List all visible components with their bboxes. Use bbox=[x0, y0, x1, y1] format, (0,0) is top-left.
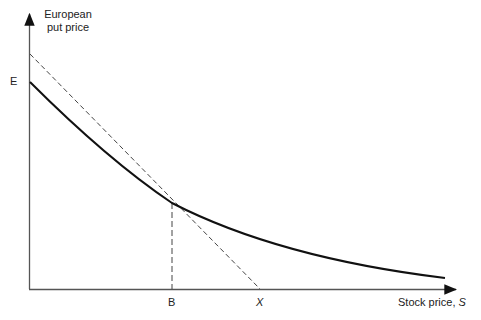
y-axis-label-line2: put price bbox=[38, 21, 98, 34]
diagram-canvas bbox=[0, 0, 481, 320]
x-tick-x: X bbox=[256, 296, 263, 309]
x-axis-label: Stock price, S bbox=[398, 296, 466, 309]
european-put-price-curve bbox=[30, 82, 445, 278]
y-axis-label: European put price bbox=[38, 8, 98, 34]
y-axis-label-line1: European bbox=[38, 8, 98, 21]
x-axis-label-var: S bbox=[459, 296, 466, 308]
x-axis-label-text: Stock price, bbox=[398, 296, 459, 308]
x-tick-b: B bbox=[168, 296, 175, 309]
y-tick-e: E bbox=[10, 75, 17, 88]
intrinsic-value-line bbox=[30, 54, 260, 289]
